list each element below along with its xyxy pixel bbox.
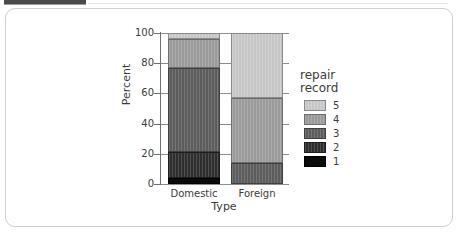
legend-title-line1: repair [300,68,394,82]
y-tick-100 [154,33,161,34]
y-axis-title: Percent [120,64,133,105]
bar-domestic-segment-5[interactable] [168,33,220,39]
bar-foreign-segment-3[interactable] [231,163,283,184]
legend-swatch-5 [304,100,326,111]
legend-title-line2: record [300,81,394,95]
legend-label-3: 3 [333,128,339,139]
y-tick-40 [154,124,161,125]
bar-domestic-segment-2[interactable] [168,152,220,178]
legend-swatch-1 [304,156,326,167]
bar-foreign-segment-5[interactable] [231,33,283,98]
stacked-bar-chart: 100 80 60 40 20 0 Percent [0,0,459,234]
screenshot-root: 100 80 60 40 20 0 Percent [0,0,459,234]
y-tick-20 [154,154,161,155]
legend-label-2: 2 [333,142,339,153]
y-tick-label-20: 20 [128,149,154,159]
legend-label-4: 4 [333,114,339,125]
bar-domestic-segment-3[interactable] [168,68,220,152]
legend-item-1[interactable]: 1 [304,155,394,168]
x-tick-label-foreign: Foreign [212,188,302,199]
legend-item-4[interactable]: 4 [304,113,394,126]
legend-item-3[interactable]: 3 [304,127,394,140]
y-gridline-0 [161,184,289,185]
legend-swatch-3 [304,128,326,139]
x-axis-title: Type [149,200,299,213]
legend-swatch-2 [304,142,326,153]
y-tick-label-100: 100 [128,28,154,38]
bar-foreign-segment-4[interactable] [231,98,283,163]
legend-rows: 5 4 3 2 1 [304,99,394,168]
y-tick-0 [154,184,161,185]
legend: repair record 5 4 3 2 [298,68,394,169]
y-tick-60 [154,93,161,94]
y-axis-line [160,32,161,185]
bar-domestic-segment-1[interactable] [168,178,220,184]
legend-label-5: 5 [333,100,339,111]
y-tick-label-40: 40 [128,119,154,129]
legend-swatch-4 [304,114,326,125]
y-tick-80 [154,63,161,64]
legend-label-1: 1 [333,156,339,167]
bar-domestic-segment-4[interactable] [168,39,220,68]
legend-item-2[interactable]: 2 [304,141,394,154]
legend-item-5[interactable]: 5 [304,99,394,112]
